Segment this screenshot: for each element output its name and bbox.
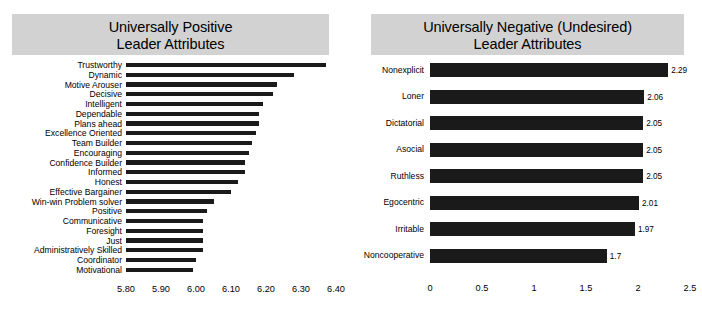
- bar-value-label: 2.29: [671, 66, 687, 75]
- x-axis-tick-label: 6.20: [246, 284, 286, 294]
- category-label: Excellence Oriented: [0, 129, 122, 138]
- category-label: Win-win Problem solver: [0, 198, 122, 207]
- category-label: Ruthless: [351, 172, 424, 181]
- bar: [430, 222, 635, 236]
- category-label: Irritable: [351, 225, 424, 234]
- bar: [126, 92, 273, 96]
- bar: [126, 121, 259, 125]
- category-label: Team Builder: [0, 139, 122, 148]
- bar: [126, 190, 231, 194]
- bar-value-label: 2.05: [646, 119, 662, 128]
- bar: [126, 258, 196, 262]
- bar: [126, 170, 245, 174]
- bar: [126, 63, 326, 67]
- bar: [430, 63, 668, 77]
- bar: [430, 143, 643, 157]
- bar: [126, 180, 238, 184]
- x-axis-tick-label: 1: [514, 283, 554, 293]
- bar: [126, 131, 256, 135]
- category-label: Encouraging: [0, 149, 122, 158]
- category-label: Decisive: [0, 90, 122, 99]
- bar-value-label: 2.05: [646, 172, 662, 181]
- chart-panel-positive: Universally Positive Leader Attributes T…: [0, 0, 351, 316]
- category-label: Nonexplicit: [351, 66, 424, 75]
- bar: [126, 73, 294, 77]
- bar: [126, 160, 245, 164]
- bar: [126, 268, 193, 272]
- x-axis-tick-label: 5.80: [106, 284, 146, 294]
- bar: [430, 196, 639, 210]
- x-axis-tick-label: 0: [410, 283, 450, 293]
- category-label: Dependable: [0, 110, 122, 119]
- category-label: Dictatorial: [351, 119, 424, 128]
- bar: [430, 169, 643, 183]
- category-label: Noncooperative: [351, 251, 424, 260]
- category-label: Trustworthy: [0, 61, 122, 70]
- category-label: Asocial: [351, 145, 424, 154]
- bar: [430, 116, 643, 130]
- bar: [430, 90, 644, 104]
- x-axis-tick-label: 6.30: [281, 284, 321, 294]
- x-axis-tick-label: 1.5: [566, 283, 606, 293]
- x-axis-tick-label: 5.90: [141, 284, 181, 294]
- bar: [430, 249, 607, 263]
- bar-value-label: 2.05: [646, 146, 662, 155]
- category-label: Positive: [0, 207, 122, 216]
- bar-chart-negative: Nonexplicit2.29Loner2.06Dictatorial2.05A…: [351, 0, 702, 316]
- x-axis-tick-label: 6.00: [176, 284, 216, 294]
- x-axis-tick-label: 0.5: [462, 283, 502, 293]
- category-label: Just: [0, 237, 122, 246]
- category-label: Intelligent: [0, 100, 122, 109]
- bar: [126, 248, 203, 252]
- x-axis-tick-label: 6.10: [211, 284, 251, 294]
- chart-panel-negative: Universally Negative (Undesired) Leader …: [351, 0, 702, 316]
- category-label: Motivational: [0, 266, 122, 275]
- bar-value-label: 2.06: [647, 93, 663, 102]
- category-label: Honest: [0, 178, 122, 187]
- bar: [126, 151, 249, 155]
- category-label: Coordinator: [0, 256, 122, 265]
- bar-value-label: 1.97: [638, 225, 654, 234]
- bar: [126, 229, 203, 233]
- bar: [126, 141, 252, 145]
- bar: [126, 102, 263, 106]
- bar: [126, 82, 277, 86]
- category-label: Effective Bargainer: [0, 188, 122, 197]
- category-label: Motive Arouser: [0, 81, 122, 90]
- bar-chart-positive: TrustworthyDynamicMotive ArouserDecisive…: [0, 0, 351, 316]
- bar-value-label: 2.01: [642, 199, 658, 208]
- category-label: Informed: [0, 168, 122, 177]
- category-label: Dynamic: [0, 71, 122, 80]
- bar: [126, 219, 203, 223]
- bar: [126, 209, 207, 213]
- category-label: Foresight: [0, 227, 122, 236]
- bar: [126, 238, 203, 242]
- bar: [126, 199, 214, 203]
- category-label: Loner: [351, 92, 424, 101]
- bar: [126, 112, 259, 116]
- x-axis-tick-label: 2: [618, 283, 658, 293]
- category-label: Administratively Skilled: [0, 246, 122, 255]
- category-label: Confidence Builder: [0, 159, 122, 168]
- x-axis-tick-label: 6.40: [316, 284, 356, 294]
- bar-value-label: 1.7: [610, 252, 621, 261]
- category-label: Plans ahead: [0, 120, 122, 129]
- x-axis-tick-label: 2.5: [670, 283, 702, 293]
- category-label: Egocentric: [351, 198, 424, 207]
- category-label: Communicative: [0, 217, 122, 226]
